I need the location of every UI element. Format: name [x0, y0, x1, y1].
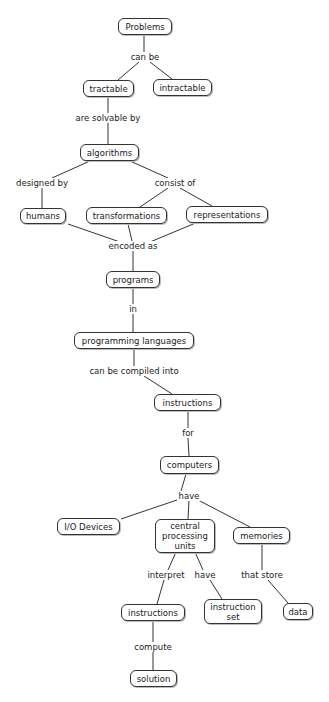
node-problems: Problems [118, 18, 172, 35]
node-intractable: intractable [153, 79, 212, 96]
link-label-encoded-as: encoded as [108, 241, 159, 251]
node-instruction-set: instruction set [204, 599, 262, 624]
node-tractable: tractable [83, 80, 134, 97]
link-label-are-solvable-by: are solvable by [75, 113, 142, 123]
link-label-interpret: interpret [146, 570, 185, 580]
node-transformations: transformations [86, 207, 167, 224]
node-computers: computers [160, 456, 219, 474]
node-memories: memories [233, 527, 290, 544]
link-label-in: in [128, 304, 138, 314]
node-programs: programs [106, 271, 160, 288]
link-label-designed-by: designed by [15, 178, 69, 188]
node-programming-languages: programming languages [74, 332, 194, 349]
link-label-that-store: that store [240, 570, 283, 580]
node-instructions: instructions [154, 394, 221, 411]
node-algorithms: algorithms [80, 144, 139, 161]
link-label-for: for [181, 428, 195, 438]
node-data: data [283, 603, 313, 620]
connector-lines [0, 0, 329, 702]
node-solution: solution [130, 670, 177, 687]
node-humans: humans [20, 208, 66, 224]
link-label-compute: compute [133, 642, 173, 652]
link-label-can-be-compiled-into: can be compiled into [88, 366, 179, 376]
node-representations: representations [186, 206, 268, 223]
node-io-devices: I/O Devices [57, 518, 120, 535]
link-label-have-2: have [194, 570, 217, 580]
link-label-have: have [178, 491, 201, 501]
link-label-can-be: can be [130, 52, 161, 62]
node-instructions-2: instructions [121, 604, 185, 621]
node-central-processing-units: central processing units [155, 519, 215, 553]
link-label-consist-of: consist of [154, 178, 197, 188]
